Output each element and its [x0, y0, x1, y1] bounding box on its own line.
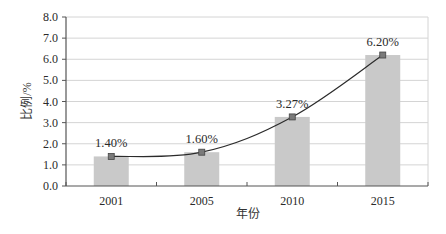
data-labels: 1.40%1.60%3.27%6.20%	[95, 35, 399, 150]
trend-line-path	[111, 55, 383, 157]
marker-square-icon	[108, 153, 114, 159]
x-tick-label: 2005	[190, 194, 214, 208]
x-tick-label: 2001	[99, 194, 123, 208]
y-tick-label: 0.0	[43, 179, 58, 193]
data-label: 1.60%	[186, 132, 218, 146]
y-tick-label: 4.0	[43, 95, 58, 109]
y-tick-label: 2.0	[43, 137, 58, 151]
x-tick-label: 2010	[280, 194, 304, 208]
y-tick-label: 7.0	[43, 31, 58, 45]
x-axis-title: 年份	[236, 207, 260, 221]
y-tick-label: 6.0	[43, 52, 58, 66]
marker-square-icon	[380, 52, 386, 58]
data-label: 6.20%	[367, 35, 399, 49]
bar-2001	[94, 156, 129, 186]
x-tick-labels: 2001200520102015	[99, 194, 395, 208]
y-axis-title: 比例/%	[20, 82, 34, 119]
y-tick-labels: 0.01.02.03.04.05.06.07.08.0	[43, 10, 58, 193]
y-tick-label: 1.0	[43, 158, 58, 172]
chart: 0.01.02.03.04.05.06.07.08.0 200120052010…	[0, 0, 446, 234]
x-tick-label: 2015	[371, 194, 395, 208]
y-tick-label: 5.0	[43, 73, 58, 87]
data-label: 1.40%	[95, 136, 127, 150]
y-tick-label: 3.0	[43, 116, 58, 130]
bar-2015	[365, 55, 400, 186]
bar-2010	[275, 117, 310, 186]
bar-2005	[184, 152, 219, 186]
bars	[94, 55, 401, 186]
marker-square-icon	[199, 149, 205, 155]
marker-square-icon	[289, 114, 295, 120]
y-tick-label: 8.0	[43, 10, 58, 24]
data-label: 3.27%	[276, 97, 308, 111]
